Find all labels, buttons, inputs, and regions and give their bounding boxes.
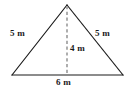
triangle-left-side — [12, 5, 67, 75]
triangle-figure: 5 m 5 m 4 m 6 m — [0, 0, 128, 91]
label-base-length: 6 m — [56, 77, 71, 87]
label-right-side-length: 5 m — [95, 28, 110, 38]
label-altitude-length: 4 m — [70, 43, 85, 53]
triangle-right-side — [67, 5, 123, 75]
label-left-side-length: 5 m — [10, 28, 25, 38]
